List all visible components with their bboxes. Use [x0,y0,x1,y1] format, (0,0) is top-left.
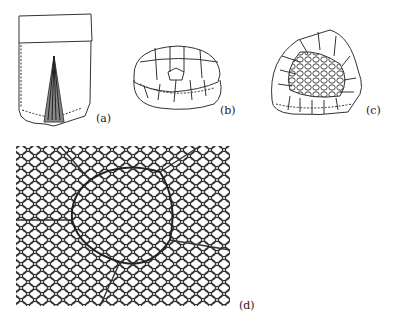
panel-b-drawing [134,46,221,109]
panel-d-drawing [16,146,230,306]
panel-label-d: (d) [239,299,255,312]
panel-label-a: (a) [96,112,111,125]
figure-drawings [0,0,396,323]
panel-label-c: (c) [366,104,381,117]
panel-label-b: (b) [220,104,236,117]
panel-c-drawing [272,30,362,115]
panel-a-drawing [19,14,92,126]
